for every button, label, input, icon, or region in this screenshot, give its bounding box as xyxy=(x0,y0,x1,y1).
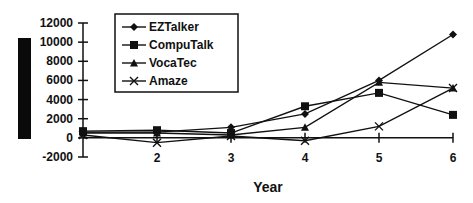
y-axis: -2000020004000600080001000012000 xyxy=(40,16,88,164)
square-marker xyxy=(130,41,138,49)
square-marker xyxy=(449,111,457,119)
y-tick-label: 0 xyxy=(66,131,73,145)
legend-label: EZTalker xyxy=(149,20,199,34)
x-tick-label: 4 xyxy=(302,151,309,165)
diamond-marker xyxy=(301,110,309,118)
side-bar xyxy=(18,38,31,139)
y-tick-label: 6000 xyxy=(46,73,73,87)
legend-label: CompuTalk xyxy=(149,38,214,52)
x-axis: 23456 xyxy=(83,133,457,165)
legend-label: Amaze xyxy=(149,74,188,88)
y-tick-label: 12000 xyxy=(40,16,74,30)
x-tick-label: 2 xyxy=(154,151,161,165)
diamond-marker xyxy=(449,30,457,38)
y-tick-label: -2000 xyxy=(42,150,73,164)
y-tick-label: 2000 xyxy=(46,112,73,126)
x-tick-label: 6 xyxy=(450,151,457,165)
square-marker xyxy=(301,102,309,110)
x-axis-title: Year xyxy=(253,179,283,195)
y-tick-label: 4000 xyxy=(46,93,73,107)
series-computalk xyxy=(79,89,457,137)
square-marker xyxy=(375,89,383,97)
y-tick-label: 8000 xyxy=(46,54,73,68)
legend: EZTalkerCompuTalkVocaTecAmaze xyxy=(115,14,238,92)
x-tick-label: 5 xyxy=(376,151,383,165)
y-tick-label: 10000 xyxy=(40,35,74,49)
line-chart: -2000020004000600080001000012000 23456 E… xyxy=(0,0,473,203)
x-tick-label: 3 xyxy=(228,151,235,165)
legend-label: VocaTec xyxy=(149,56,197,70)
